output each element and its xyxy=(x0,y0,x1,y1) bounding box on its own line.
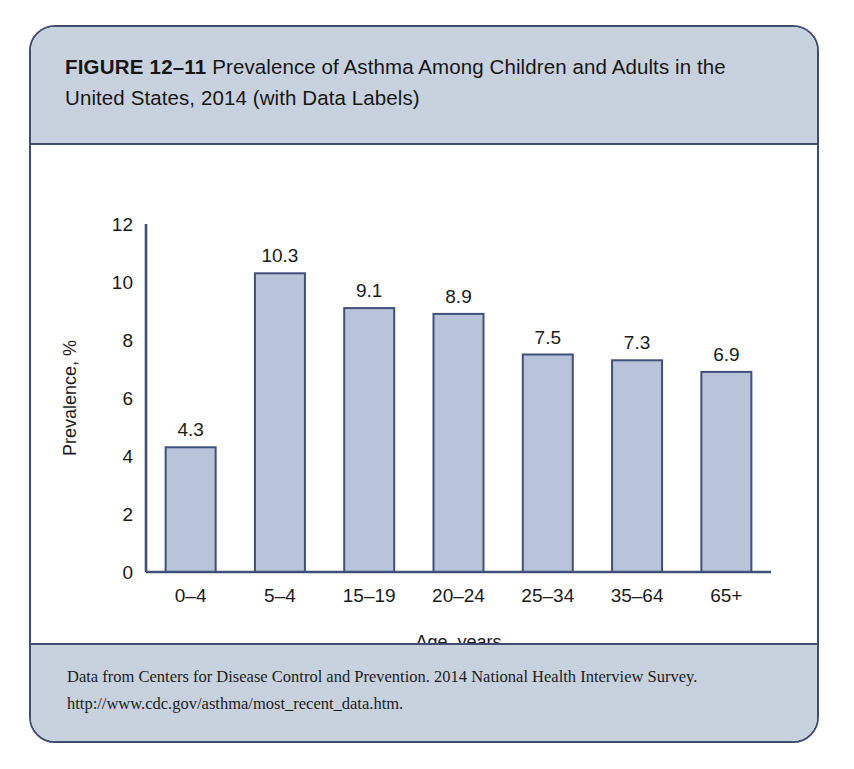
y-tick-label: 6 xyxy=(122,388,133,409)
x-category-label: 15–19 xyxy=(343,585,396,606)
figure-header: FIGURE 12–11 Prevalence of Asthma Among … xyxy=(31,27,817,145)
asthma-prevalence-bar-chart: 024681012 4.310.39.18.97.57.36.9 0–45–41… xyxy=(31,145,817,645)
x-category-label: 25–34 xyxy=(521,585,574,606)
figure-card: FIGURE 12–11 Prevalence of Asthma Among … xyxy=(29,25,819,743)
x-category-label: 0–4 xyxy=(175,585,207,606)
page-title: FIGURE 12–11 Prevalence of Asthma Among … xyxy=(65,51,783,113)
y-axis-tick-labels: 024681012 xyxy=(112,214,134,583)
bar xyxy=(612,360,662,572)
x-category-label: 65+ xyxy=(710,585,742,606)
bar-value-label: 7.5 xyxy=(535,327,561,348)
source-line-1: Data from Centers for Disease Control an… xyxy=(67,663,781,690)
bar xyxy=(166,447,216,572)
x-category-label: 35–64 xyxy=(611,585,664,606)
bar xyxy=(344,308,394,572)
x-category-label: 5–4 xyxy=(264,585,296,606)
figure-number: FIGURE 12–11 xyxy=(65,55,206,78)
figure-source-note: Data from Centers for Disease Control an… xyxy=(31,643,817,741)
bar-value-label: 6.9 xyxy=(713,344,739,365)
x-axis-category-labels: 0–45–415–1920–2425–3435–6465+ xyxy=(175,585,743,606)
bar xyxy=(255,273,305,572)
y-tick-label: 12 xyxy=(112,214,133,235)
bar xyxy=(701,372,751,572)
bar xyxy=(523,355,573,573)
y-tick-label: 2 xyxy=(122,504,133,525)
y-axis-title: Prevalence, % xyxy=(60,340,80,456)
bar-value-label: 8.9 xyxy=(445,286,471,307)
y-tick-label: 0 xyxy=(122,562,133,583)
y-tick-label: 8 xyxy=(122,330,133,351)
bar-value-label: 10.3 xyxy=(261,245,298,266)
chart-plot-region: 024681012 4.310.39.18.97.57.36.9 0–45–41… xyxy=(31,145,817,645)
y-tick-label: 4 xyxy=(122,446,133,467)
bars-group xyxy=(166,273,752,572)
y-tick-label: 10 xyxy=(112,272,133,293)
bar-value-label: 4.3 xyxy=(177,419,203,440)
bar-value-label: 9.1 xyxy=(356,280,382,301)
bar xyxy=(434,314,484,572)
x-category-label: 20–24 xyxy=(432,585,485,606)
source-line-2: http://www.cdc.gov/asthma/most_recent_da… xyxy=(67,690,781,717)
bar-value-label: 7.3 xyxy=(624,332,650,353)
